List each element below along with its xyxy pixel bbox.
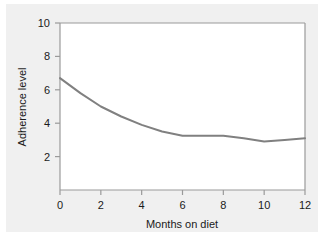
x-tick-label: 4 <box>139 199 145 211</box>
x-tick-label: 6 <box>179 199 185 211</box>
y-tick-label: 4 <box>44 117 50 129</box>
x-tick-label: 0 <box>57 199 63 211</box>
y-tick-label: 8 <box>44 50 50 62</box>
x-tick-label: 12 <box>299 199 311 211</box>
chart-figure: 246810 024681012 Months on diet Adherenc… <box>0 0 324 243</box>
plot-area <box>60 23 305 190</box>
x-tick-label: 2 <box>98 199 104 211</box>
y-tick-label: 2 <box>44 151 50 163</box>
x-tick-label: 8 <box>220 199 226 211</box>
y-tick-label: 6 <box>44 84 50 96</box>
y-axis-tick-labels: 246810 <box>38 17 50 163</box>
x-axis-title: Months on diet <box>146 218 218 230</box>
y-axis-ticks <box>55 23 60 157</box>
y-axis-title: Adherence level <box>16 68 28 147</box>
x-axis-tick-labels: 024681012 <box>57 199 311 211</box>
x-axis-ticks <box>60 190 305 195</box>
y-tick-label: 10 <box>38 17 50 29</box>
x-tick-label: 10 <box>258 199 270 211</box>
line-chart: 246810 024681012 Months on diet Adherenc… <box>0 0 324 243</box>
